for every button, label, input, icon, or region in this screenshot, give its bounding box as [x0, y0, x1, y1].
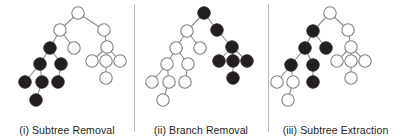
panel-divider [134, 4, 135, 132]
tree-node [359, 55, 371, 67]
tree-diagram-subtree-removal [0, 0, 134, 118]
tree-node [161, 58, 173, 70]
tree-node [271, 76, 283, 88]
tree-node [100, 55, 112, 67]
tree-node-selected [213, 55, 225, 67]
tree-node [345, 55, 357, 67]
tree-node [287, 76, 299, 88]
tree-node-selected [30, 94, 42, 106]
tree-node [146, 76, 158, 88]
panel-branch-removal: (ii) Branch Removal [134, 0, 268, 140]
tree-node [331, 55, 343, 67]
tree-node-selected [320, 42, 332, 54]
tree-node-selected [34, 58, 46, 70]
tree-diagram-branch-removal [134, 0, 268, 118]
panel-caption: (iii) Subtree Extraction [268, 124, 403, 136]
tree-node-selected [198, 7, 210, 19]
tree-node [86, 55, 98, 67]
panel-subtree-removal: (i) Subtree Removal [0, 0, 134, 140]
tree-node-selected [307, 59, 319, 71]
panel-caption: (i) Subtree Removal [0, 124, 134, 136]
tree-node [68, 42, 80, 54]
tree-node [342, 24, 354, 36]
tree-node [194, 42, 206, 54]
tree-node [100, 72, 112, 84]
tree-node-selected [307, 25, 319, 37]
tree-node [182, 58, 194, 70]
tree-node [170, 42, 182, 54]
tree-node [324, 7, 336, 19]
tree-nodes [19, 7, 126, 106]
tree-node-selected [52, 76, 64, 88]
tree-node-selected [307, 76, 319, 88]
tree-node-selected [44, 42, 56, 54]
panel-subtree-extraction: (iii) Subtree Extraction [268, 0, 403, 140]
tree-node [345, 41, 357, 53]
tree-node-selected [211, 24, 223, 36]
tree-nodes [271, 7, 371, 106]
tree-node [345, 72, 357, 84]
tree-node [157, 94, 169, 106]
tree-operations-figure: (i) Subtree Removal (ii) Branch Removal … [0, 0, 403, 140]
tree-node [163, 76, 175, 88]
tree-node-selected [36, 76, 48, 88]
tree-node-selected [19, 76, 31, 88]
tree-node [54, 24, 66, 36]
tree-node-selected [241, 55, 253, 67]
tree-node [98, 24, 110, 36]
tree-node-selected [299, 42, 311, 54]
tree-node-selected [226, 41, 238, 53]
panel-divider [268, 4, 269, 132]
panel-caption: (ii) Branch Removal [134, 124, 268, 136]
tree-node-selected [227, 72, 239, 84]
tree-node-selected [285, 59, 297, 71]
tree-diagram-subtree-extraction [268, 0, 403, 118]
tree-node [181, 25, 193, 37]
tree-node-selected [55, 58, 67, 70]
tree-node [114, 55, 126, 67]
tree-nodes [146, 7, 253, 106]
tree-node [282, 94, 294, 106]
tree-node [72, 7, 84, 19]
tree-node [101, 41, 113, 53]
tree-node-selected [227, 55, 239, 67]
tree-node [179, 76, 191, 88]
